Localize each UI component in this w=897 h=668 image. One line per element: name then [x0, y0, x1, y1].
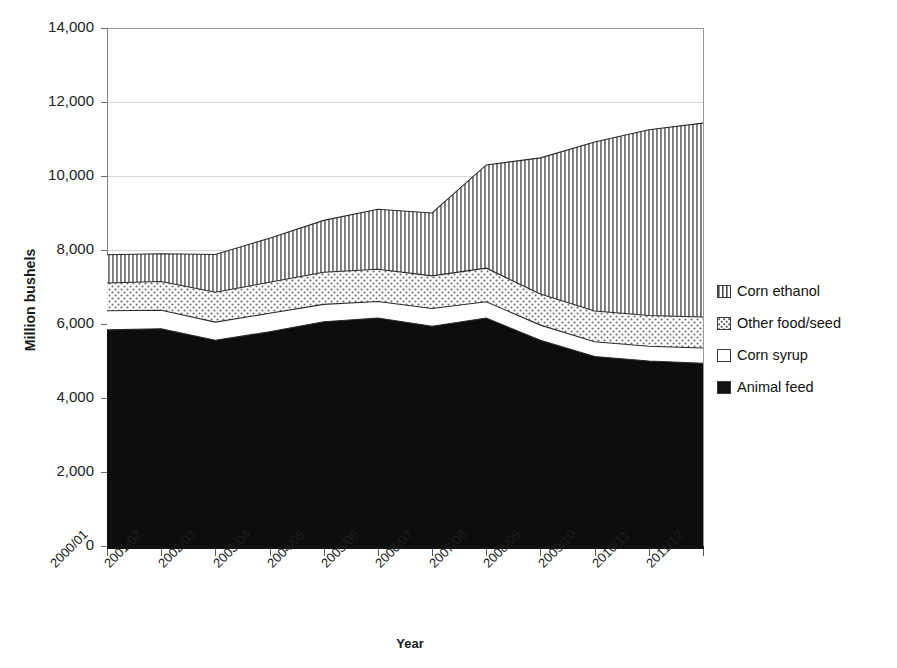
area-chart: Million bushels 14,00012,00010,0008,0006…	[0, 0, 897, 668]
legend-item[interactable]: Other food/seed	[717, 315, 892, 332]
legend-item-label: Corn ethanol	[737, 284, 820, 299]
legend-item-label: Animal feed	[737, 380, 814, 395]
legend-item[interactable]: Corn syrup	[717, 347, 892, 364]
empty-swatch	[717, 349, 731, 362]
chart-legend: Corn ethanolOther food/seedCorn syrupAni…	[717, 283, 892, 411]
x-axis-title: Year	[350, 636, 470, 651]
vertical-stripes-swatch	[717, 285, 731, 298]
legend-item[interactable]: Corn ethanol	[717, 283, 892, 300]
legend-item[interactable]: Animal feed	[717, 379, 892, 396]
legend-item-label: Other food/seed	[737, 316, 841, 331]
legend-item-label: Corn syrup	[737, 348, 808, 363]
dotted-swatch	[717, 317, 731, 330]
solid-black-swatch	[717, 381, 731, 394]
x-tick-mark	[703, 549, 704, 556]
